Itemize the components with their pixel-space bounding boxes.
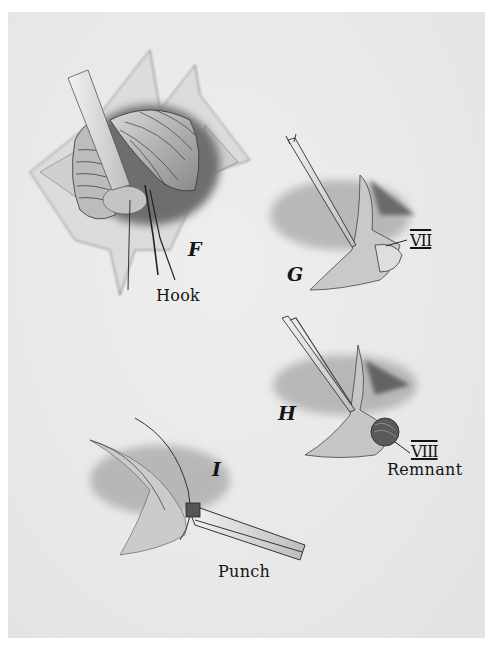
callout-nerve-viii: VIII bbox=[411, 442, 438, 461]
surgical-illustration-artwork bbox=[0, 0, 496, 646]
panel-label-g: G bbox=[287, 263, 303, 285]
panel-label-f: F bbox=[188, 238, 202, 260]
panel-label-i: I bbox=[212, 458, 221, 480]
callout-punch: Punch bbox=[218, 562, 270, 581]
panel-f-drawing bbox=[30, 50, 250, 295]
panel-i-drawing bbox=[90, 418, 305, 560]
callout-remnant: Remnant bbox=[387, 460, 462, 479]
callout-hook: Hook bbox=[156, 286, 200, 305]
callout-nerve-vii: VII bbox=[410, 231, 431, 250]
panel-label-h: H bbox=[278, 402, 296, 424]
panel-h-drawing bbox=[273, 316, 417, 458]
